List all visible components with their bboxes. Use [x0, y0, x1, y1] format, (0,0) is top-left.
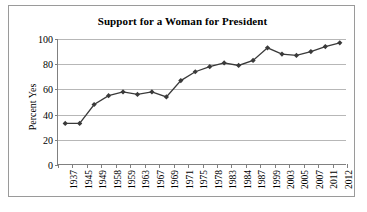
data-point-marker: [149, 89, 154, 94]
x-tick-label: 2005: [300, 170, 310, 189]
x-tick-label: 1984: [243, 170, 253, 189]
plot-area: 020406080100 193719451949195819591963196…: [57, 39, 346, 165]
series-markers: [63, 40, 343, 126]
x-tick-label: 1983: [228, 170, 238, 189]
data-point-marker: [207, 64, 212, 69]
data-point-marker: [323, 44, 328, 49]
chart-title: Support for a Woman for President: [9, 15, 356, 27]
x-tick-label: 1949: [98, 170, 108, 189]
data-point-marker: [135, 92, 140, 97]
x-tick-label: 1937: [69, 170, 79, 189]
chart-figure: Support for a Woman for President Percen…: [0, 0, 367, 212]
y-tick-label: 0: [48, 160, 53, 171]
x-tick-label: 1978: [214, 170, 224, 189]
x-tick-mark: [347, 164, 348, 168]
y-axis-title: Percent Yes: [27, 44, 41, 170]
x-tick-label: 2011: [329, 170, 339, 189]
x-tick-label: 1945: [84, 170, 94, 189]
x-tick-label: 1999: [272, 170, 282, 189]
series-line-percent-yes: [65, 43, 340, 124]
data-point-marker: [236, 63, 241, 68]
data-point-marker: [279, 52, 284, 57]
x-tick-label: 1958: [113, 170, 123, 189]
y-tick-label: 60: [43, 84, 53, 95]
series-plot: [58, 39, 347, 165]
y-tick-label: 80: [43, 59, 53, 70]
data-point-marker: [294, 53, 299, 58]
y-tick-label: 20: [43, 134, 53, 145]
x-tick-label: 2007: [315, 170, 325, 189]
data-point-marker: [63, 121, 68, 126]
x-tick-label: 1967: [156, 170, 166, 189]
x-tick-label: 2012: [344, 170, 354, 189]
data-point-marker: [308, 49, 313, 54]
x-tick-label: 1963: [141, 170, 151, 189]
x-tick-label: 2003: [286, 170, 296, 189]
x-tick-label: 1959: [127, 170, 137, 189]
data-point-marker: [337, 40, 342, 45]
x-tick-label: 1969: [170, 170, 180, 189]
y-tick-label: 100: [38, 34, 53, 45]
data-point-marker: [120, 89, 125, 94]
data-point-marker: [222, 60, 227, 65]
chart-frame: Support for a Woman for President Percen…: [8, 5, 355, 197]
x-tick-label: 1971: [185, 170, 195, 189]
y-tick-label: 40: [43, 109, 53, 120]
x-tick-label: 1987: [257, 170, 267, 189]
x-tick-label: 1975: [199, 170, 209, 189]
